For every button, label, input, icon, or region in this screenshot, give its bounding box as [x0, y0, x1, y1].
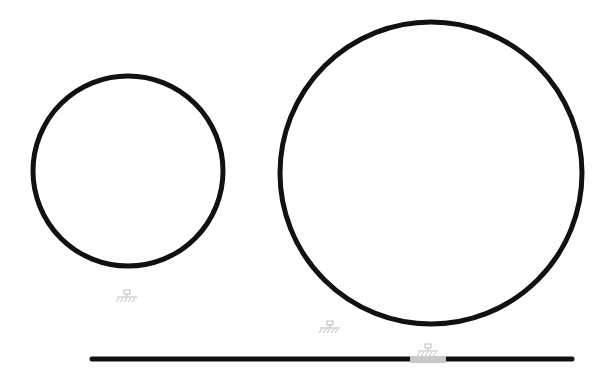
ground-symbol-small — [116, 290, 137, 302]
small-circle — [33, 76, 223, 266]
large-circle — [280, 22, 582, 324]
ground-symbol-baseline — [417, 344, 438, 356]
baseline-highlight — [410, 356, 446, 363]
ground-symbol-large — [319, 321, 340, 333]
diagram-canvas — [0, 0, 612, 379]
